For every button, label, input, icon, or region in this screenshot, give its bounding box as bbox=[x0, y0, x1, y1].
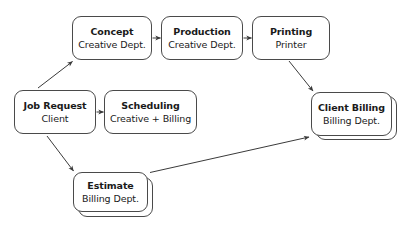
node-production-title: Production bbox=[173, 26, 230, 38]
node-scheduling[interactable]: Scheduling Creative + Billing bbox=[104, 90, 197, 134]
node-job-request-subtitle: Client bbox=[42, 112, 69, 125]
node-job-request[interactable]: Job Request Client bbox=[14, 90, 96, 134]
node-client-billing[interactable]: Client Billing Billing Dept. bbox=[311, 92, 392, 136]
node-printing-subtitle: Printer bbox=[276, 38, 307, 51]
node-production-subtitle: Creative Dept. bbox=[168, 38, 235, 51]
node-client-billing-title: Client Billing bbox=[318, 102, 385, 114]
node-scheduling-subtitle: Creative + Billing bbox=[110, 112, 191, 125]
node-job-request-title: Job Request bbox=[23, 100, 86, 112]
node-estimate-subtitle: Billing Dept. bbox=[82, 192, 139, 205]
node-client-billing-subtitle: Billing Dept. bbox=[323, 114, 380, 127]
node-estimate[interactable]: Estimate Billing Dept. bbox=[73, 172, 148, 212]
node-production[interactable]: Production Creative Dept. bbox=[161, 16, 243, 60]
flowchart-diagram: Job Request Client Concept Creative Dept… bbox=[0, 0, 405, 230]
node-concept-title: Concept bbox=[91, 26, 134, 38]
node-scheduling-title: Scheduling bbox=[121, 100, 179, 112]
node-printing-title: Printing bbox=[270, 26, 312, 38]
node-concept[interactable]: Concept Creative Dept. bbox=[72, 16, 152, 60]
node-concept-subtitle: Creative Dept. bbox=[78, 38, 145, 51]
edge-estimate-to-client-billing bbox=[150, 137, 309, 173]
node-printing[interactable]: Printing Printer bbox=[252, 16, 330, 60]
edge-job-request-to-concept bbox=[38, 62, 73, 89]
edge-job-request-to-estimate bbox=[47, 136, 74, 171]
node-estimate-title: Estimate bbox=[87, 180, 133, 192]
edge-printing-to-client-billing bbox=[289, 61, 313, 91]
